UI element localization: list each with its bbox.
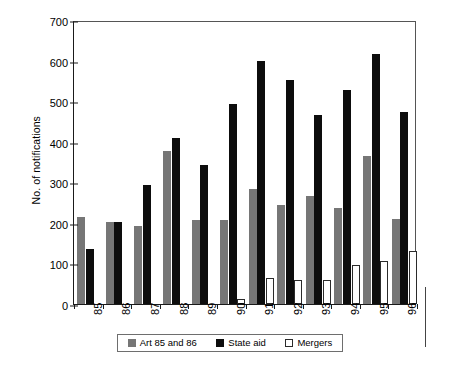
y-axis-tick-label: 200	[50, 219, 68, 230]
y-axis-tick-mark	[70, 265, 78, 266]
bar-group	[131, 22, 160, 304]
bar-group	[74, 22, 103, 304]
y-axis-tick-label: 600	[50, 57, 68, 68]
x-axis-tick-mark	[103, 304, 104, 309]
bar-group	[103, 22, 132, 304]
bar-group	[274, 22, 303, 304]
y-axis-tick-mark	[70, 224, 78, 225]
bar-state-aid-94	[343, 90, 351, 304]
bar-art-85-and-86-94	[334, 208, 342, 304]
bar-art-85-and-86-87	[134, 226, 142, 304]
x-axis-tick-mark	[74, 304, 75, 309]
bar-state-aid-85	[86, 249, 94, 304]
bar-group	[303, 22, 332, 304]
page-edge-artifact	[425, 287, 426, 347]
chart-figure: No. of notifications 0100200300400500600…	[0, 0, 451, 367]
bar-mergers-93	[323, 280, 331, 304]
y-axis-tick-mark	[70, 103, 78, 104]
y-axis-title: No. of notifications	[31, 80, 42, 240]
bar-mergers-96	[409, 251, 417, 304]
bar-state-aid-88	[172, 138, 180, 304]
bar-mergers-94	[352, 265, 360, 304]
bar-mergers-91	[266, 278, 274, 304]
x-axis-tick-mark	[331, 304, 332, 309]
legend-label: State aid	[228, 338, 266, 348]
x-axis-tick-mark	[188, 304, 189, 309]
legend-item-mergers[interactable]: Mergers	[285, 338, 332, 348]
legend-label: Art 85 and 86	[140, 338, 197, 348]
bar-state-aid-86	[114, 222, 122, 304]
bar-group	[388, 22, 417, 304]
x-axis-tick-mark	[360, 304, 361, 309]
legend-swatch-icon	[216, 339, 224, 347]
y-axis-tick-label: 700	[50, 17, 68, 28]
bar-state-aid-93	[314, 115, 322, 304]
bar-state-aid-96	[400, 112, 408, 304]
bar-art-85-and-86-92	[277, 205, 285, 304]
bar-state-aid-92	[286, 80, 294, 304]
x-axis-tick-mark	[303, 304, 304, 309]
bar-group	[188, 22, 217, 304]
bar-art-85-and-86-85	[77, 217, 85, 304]
legend-swatch-icon	[285, 339, 293, 347]
x-axis-tick-mark	[388, 304, 389, 309]
bar-art-85-and-86-93	[306, 196, 314, 304]
y-axis-tick-label: 400	[50, 138, 68, 149]
bar-art-85-and-86-89	[192, 220, 200, 304]
bar-state-aid-95	[372, 54, 380, 304]
bar-art-85-and-86-96	[392, 219, 400, 304]
chart-legend: Art 85 and 86State aidMergers	[117, 334, 343, 352]
x-axis-tick-mark	[217, 304, 218, 309]
legend-item-state-aid[interactable]: State aid	[216, 338, 266, 348]
bars-layer	[74, 22, 415, 304]
legend-swatch-icon	[128, 339, 136, 347]
bar-group	[246, 22, 275, 304]
bar-state-aid-89	[200, 165, 208, 304]
x-axis-tick-mark	[246, 304, 247, 309]
bar-art-85-and-86-86	[106, 222, 114, 304]
legend-label: Mergers	[297, 338, 332, 348]
bar-group	[331, 22, 360, 304]
x-axis-tick-mark	[131, 304, 132, 309]
y-axis-tick-label: 0	[62, 301, 68, 312]
bar-group	[360, 22, 389, 304]
bar-group	[217, 22, 246, 304]
bar-mergers-95	[380, 261, 388, 304]
bar-mergers-92	[294, 280, 302, 304]
bar-art-85-and-86-90	[220, 220, 228, 304]
y-axis-tick-mark	[70, 143, 78, 144]
bar-art-85-and-86-88	[163, 151, 171, 304]
x-axis-tick-mark	[160, 304, 161, 309]
y-axis-tick-label: 300	[50, 179, 68, 190]
y-axis-tick-label: 100	[50, 260, 68, 271]
y-axis-tick-mark	[70, 184, 78, 185]
bar-group	[160, 22, 189, 304]
plot-area: 0100200300400500600700858687888990919293…	[73, 21, 416, 305]
bar-state-aid-87	[143, 185, 151, 304]
x-axis-tick-mark	[417, 304, 418, 309]
y-axis-tick-mark	[70, 22, 78, 23]
y-axis-tick-label: 500	[50, 98, 68, 109]
y-axis-tick-mark	[70, 62, 78, 63]
bar-art-85-and-86-91	[249, 189, 257, 304]
bar-art-85-and-86-95	[363, 156, 371, 304]
x-axis-tick-mark	[274, 304, 275, 309]
legend-item-art-85-and-86[interactable]: Art 85 and 86	[128, 338, 197, 348]
bar-state-aid-91	[257, 61, 265, 304]
bar-state-aid-90	[229, 104, 237, 304]
